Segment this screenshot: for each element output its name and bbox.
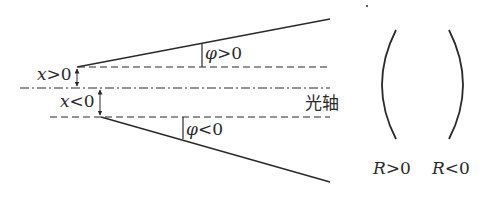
- concave-surface-arc: [449, 30, 463, 139]
- r-positive-label: R>0: [372, 158, 411, 178]
- stray-dot: [366, 5, 368, 7]
- phi-negative-label: φ<0: [186, 119, 223, 139]
- sign-convention-diagram: x>0 x<0 φ>0 φ<0 光轴 R>0 R<0: [0, 0, 489, 200]
- optical-axis-label: 光轴: [305, 93, 339, 113]
- convex-surface-arc: [382, 30, 396, 139]
- upper-ray: [77, 19, 330, 67]
- r-negative-label: R<0: [431, 158, 470, 178]
- x-positive-label: x>0: [37, 64, 72, 84]
- phi-positive-label: φ>0: [205, 43, 242, 63]
- x-negative-label: x<0: [60, 91, 95, 111]
